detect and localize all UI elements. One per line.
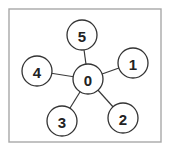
node-label: 3	[58, 114, 66, 131]
node-1: 1	[118, 48, 148, 78]
node-4: 4	[22, 56, 52, 86]
node-label: 5	[78, 28, 86, 45]
node-label: 1	[129, 56, 137, 73]
node-0: 0	[73, 64, 103, 94]
node-label: 2	[119, 111, 127, 128]
node-label: 4	[33, 64, 42, 81]
node-3: 3	[47, 106, 77, 136]
nodes-group: 012345	[22, 20, 148, 136]
node-5: 5	[67, 20, 97, 50]
node-2: 2	[108, 103, 138, 133]
node-label: 0	[84, 72, 92, 89]
star-graph-diagram: 012345	[0, 0, 172, 151]
